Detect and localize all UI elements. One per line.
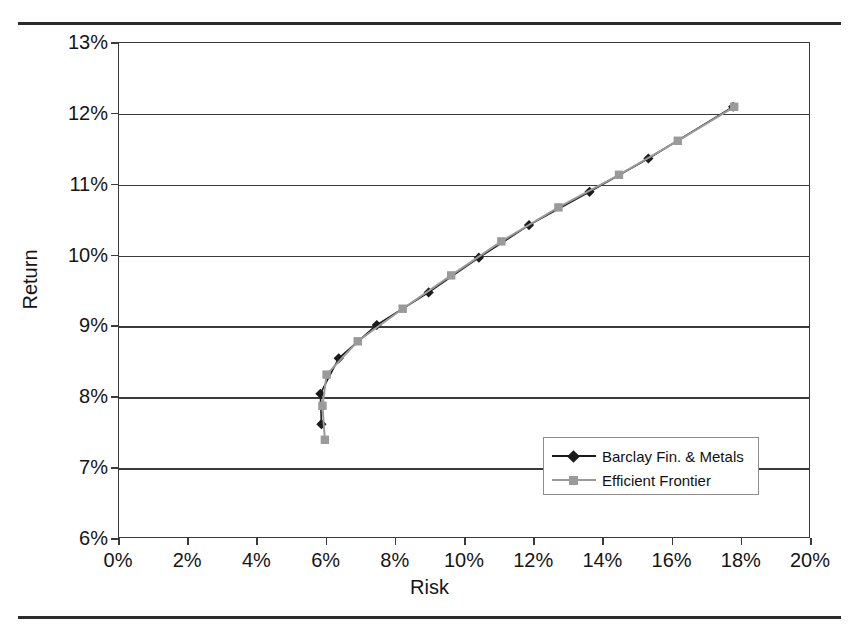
data-point-marker	[554, 203, 562, 211]
y-tick-mark	[111, 396, 118, 398]
y-tick-mark	[111, 325, 118, 327]
legend-label-barclay: Barclay Fin. & Metals	[596, 448, 744, 465]
x-tick-label: 8%	[360, 550, 430, 570]
series-barclay	[315, 102, 738, 430]
y-tick-label: 6%	[46, 528, 108, 548]
data-point-marker	[399, 305, 407, 313]
chart-legend: Barclay Fin. & Metals Efficient Frontier	[543, 437, 759, 495]
data-point-marker	[730, 103, 738, 111]
data-point-marker	[321, 436, 329, 444]
x-tick-label: 18%	[706, 550, 776, 570]
data-point-marker	[354, 337, 362, 345]
x-tick-label: 6%	[291, 550, 361, 570]
x-tick-label: 20%	[775, 550, 845, 570]
y-axis-title: Return	[19, 210, 42, 350]
x-tick-mark	[533, 538, 535, 545]
y-tick-mark	[111, 255, 118, 257]
data-point-marker	[497, 237, 505, 245]
x-tick-mark	[118, 538, 120, 545]
x-tick-label: 14%	[567, 550, 637, 570]
y-tick-label: 13%	[46, 32, 108, 52]
series-frontier	[318, 103, 738, 444]
data-point-marker	[318, 402, 326, 410]
x-tick-label: 0%	[83, 550, 153, 570]
y-tick-label: 8%	[46, 386, 108, 406]
y-tick-mark	[111, 113, 118, 115]
y-tick-label: 7%	[46, 457, 108, 477]
legend-key-diamond-icon	[552, 449, 596, 463]
x-tick-label: 12%	[498, 550, 568, 570]
x-axis-title: Risk	[0, 576, 859, 599]
y-tick-mark	[111, 42, 118, 44]
y-tick-label: 12%	[46, 103, 108, 123]
y-tick-label: 9%	[46, 315, 108, 335]
series-line	[322, 107, 734, 440]
figure-container: 6%7%8%9%10%11%12%13% 0%2%4%6%8%10%12%14%…	[0, 0, 859, 638]
y-tick-mark	[111, 184, 118, 186]
x-tick-mark	[672, 538, 674, 545]
bottom-divider-rule	[18, 616, 841, 619]
legend-item-frontier: Efficient Frontier	[552, 468, 750, 492]
data-point-marker	[615, 171, 623, 179]
top-divider-rule	[18, 22, 841, 25]
y-tick-label: 10%	[46, 245, 108, 265]
x-tick-label: 4%	[221, 550, 291, 570]
x-tick-label: 16%	[637, 550, 707, 570]
legend-key-square-icon	[552, 473, 596, 487]
x-tick-label: 2%	[152, 550, 222, 570]
x-tick-mark	[464, 538, 466, 545]
y-tick-label: 11%	[46, 174, 108, 194]
x-tick-mark	[810, 538, 812, 545]
data-point-marker	[322, 370, 330, 378]
x-tick-mark	[395, 538, 397, 545]
x-tick-mark	[187, 538, 189, 545]
x-tick-mark	[326, 538, 328, 545]
x-tick-mark	[256, 538, 258, 545]
legend-item-barclay: Barclay Fin. & Metals	[552, 444, 750, 468]
data-point-marker	[447, 271, 455, 279]
y-tick-mark	[111, 538, 118, 540]
data-point-marker	[674, 137, 682, 145]
series-line	[320, 107, 733, 424]
x-tick-mark	[741, 538, 743, 545]
y-tick-mark	[111, 467, 118, 469]
x-tick-mark	[602, 538, 604, 545]
x-tick-label: 10%	[429, 550, 499, 570]
legend-label-frontier: Efficient Frontier	[596, 472, 711, 489]
